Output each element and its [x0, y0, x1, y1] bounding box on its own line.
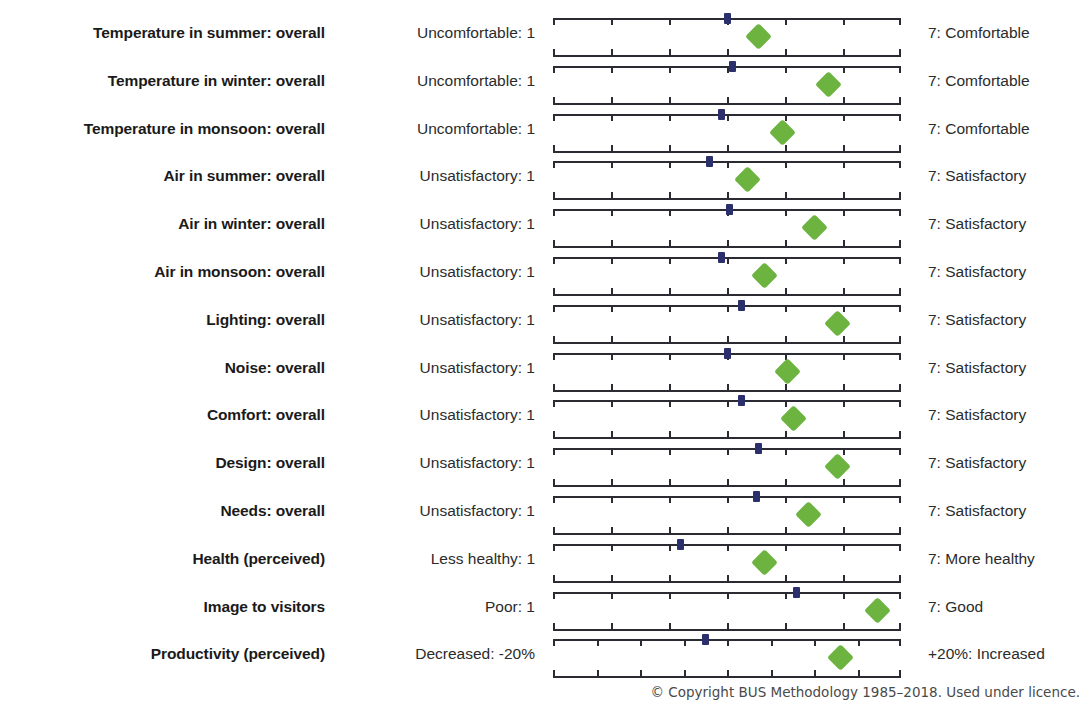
axis-tick	[899, 353, 901, 360]
row-question-label: Health (perceived)	[0, 550, 325, 568]
score-marker	[780, 405, 807, 432]
axis-tick	[669, 479, 671, 486]
row-high-anchor-label: 7: Satisfactory	[928, 311, 1090, 329]
axis-tick	[669, 575, 671, 582]
axis-tick	[727, 305, 729, 312]
axis-tick	[727, 670, 729, 677]
axis-tick	[669, 353, 671, 360]
axis-tick	[553, 639, 555, 646]
benchmark-marker	[738, 300, 745, 311]
axis-tick	[611, 305, 613, 312]
axis-tick	[814, 670, 816, 677]
axis-tick	[899, 97, 901, 104]
survey-row: Air in winter: overallUnsatisfactory: 17…	[0, 201, 1090, 249]
survey-row: Air in summer: overallUnsatisfactory: 17…	[0, 153, 1090, 201]
axis-tick	[727, 479, 729, 486]
axis-tick	[553, 353, 555, 360]
axis-tick	[553, 384, 555, 391]
row-scale	[553, 106, 901, 154]
axis-tick	[785, 257, 787, 264]
axis-tick	[785, 240, 787, 247]
axis-tick	[669, 18, 671, 25]
axis-tick	[553, 336, 555, 343]
axis-tick	[611, 49, 613, 56]
row-low-anchor-label: Unsatisfactory: 1	[330, 359, 535, 377]
axis-tick	[669, 431, 671, 438]
score-marker	[751, 262, 778, 289]
axis-tick	[727, 544, 729, 551]
axis-tick	[669, 305, 671, 312]
row-scale	[553, 58, 901, 106]
benchmark-marker	[724, 13, 731, 24]
axis-tick	[727, 192, 729, 199]
row-low-anchor-label: Unsatisfactory: 1	[330, 406, 535, 424]
survey-row: Health (perceived)Less healthy: 17: More…	[0, 536, 1090, 584]
axis-tick	[899, 66, 901, 73]
axis-tick	[553, 431, 555, 438]
row-question-label: Temperature in winter: overall	[0, 72, 325, 90]
axis-tick	[611, 431, 613, 438]
axis-tick	[843, 114, 845, 121]
axis-tick	[899, 209, 901, 216]
axis-tick	[843, 145, 845, 152]
row-low-anchor-label: Unsatisfactory: 1	[330, 311, 535, 329]
row-question-label: Air in summer: overall	[0, 167, 325, 185]
row-question-label: Comfort: overall	[0, 406, 325, 424]
axis-tick	[611, 479, 613, 486]
axis-tick	[899, 336, 901, 343]
row-low-anchor-label: Uncomfortable: 1	[330, 24, 535, 42]
axis-tick	[899, 49, 901, 56]
row-low-anchor-label: Unsatisfactory: 1	[330, 215, 535, 233]
axis-tick	[611, 336, 613, 343]
benchmark-marker	[793, 587, 800, 598]
axis-tick	[669, 257, 671, 264]
axis-tick	[899, 305, 901, 312]
axis-tick	[843, 209, 845, 216]
score-marker	[824, 453, 851, 480]
axis-tick	[611, 575, 613, 582]
axis-tick	[553, 544, 555, 551]
axis-tick	[611, 97, 613, 104]
axis-tick	[899, 400, 901, 407]
score-marker	[769, 119, 796, 146]
axis-tick	[785, 592, 787, 599]
axis-tick	[597, 670, 599, 677]
axis-tick	[843, 161, 845, 168]
axis-tick	[858, 639, 860, 646]
row-question-label: Needs: overall	[0, 502, 325, 520]
row-scale	[553, 631, 901, 679]
row-high-anchor-label: 7: Satisfactory	[928, 215, 1090, 233]
row-high-anchor-label: 7: Satisfactory	[928, 454, 1090, 472]
axis-tick	[899, 575, 901, 582]
axis-tick	[553, 49, 555, 56]
score-marker	[815, 71, 842, 98]
axis-tick	[843, 305, 845, 312]
axis-tick	[684, 670, 686, 677]
axis-tick	[843, 49, 845, 56]
axis-tick	[843, 257, 845, 264]
score-marker	[774, 358, 801, 385]
axis-tick	[785, 400, 787, 407]
survey-row: Productivity (perceived)Decreased: -20%+…	[0, 631, 1090, 679]
row-low-anchor-label: Unsatisfactory: 1	[330, 167, 535, 185]
axis-tick	[785, 97, 787, 104]
row-question-label: Productivity (perceived)	[0, 645, 325, 663]
axis-tick	[785, 479, 787, 486]
axis-tick	[553, 66, 555, 73]
axis-tick	[669, 240, 671, 247]
row-scale	[553, 10, 901, 58]
row-scale	[553, 488, 901, 536]
axis-tick	[669, 66, 671, 73]
axis-tick	[899, 145, 901, 152]
row-scale	[553, 440, 901, 488]
axis-tick	[771, 639, 773, 646]
axis-tick	[611, 209, 613, 216]
axis-tick	[727, 527, 729, 534]
axis-tick	[785, 544, 787, 551]
axis-tick	[785, 49, 787, 56]
row-scale	[553, 584, 901, 632]
axis-tick	[611, 353, 613, 360]
axis-tick	[611, 527, 613, 534]
axis-tick	[669, 97, 671, 104]
axis-tick	[611, 384, 613, 391]
